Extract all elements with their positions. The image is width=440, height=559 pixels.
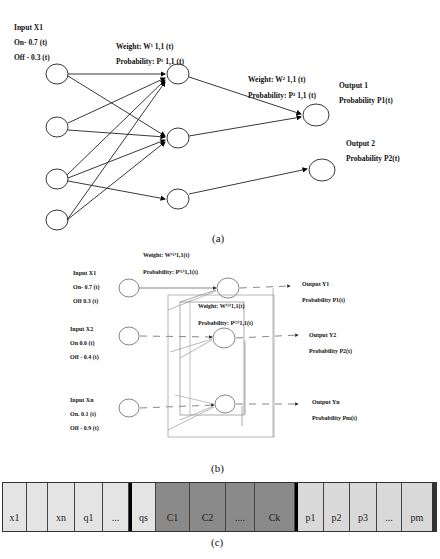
probability-top-label: Probability: P⁽¹⁾1,1(t) xyxy=(143,268,198,275)
input-xn-name: Input Xn xyxy=(70,397,94,403)
chromosome-strip: x1 xn q1 ... qs C1 C2 .... Ck p1 p2 p3 .… xyxy=(2,482,437,532)
caption-c: (c) xyxy=(211,536,223,548)
input-xn-off: Off - 0.9 (t) xyxy=(70,425,99,431)
gene-cell: q1 xyxy=(75,483,103,531)
input-x1-name: Input X1 xyxy=(73,270,96,276)
caption-a: (a) xyxy=(212,232,224,244)
output1-label: Output 1 xyxy=(339,81,368,90)
gene-cell: C2 xyxy=(190,483,226,531)
input-x1-on: On- 0.7 (t) xyxy=(73,284,100,290)
gene-cell: p3 xyxy=(350,483,377,531)
output-y1-name: Output Y1 xyxy=(302,281,329,287)
output-yn-prob: Probability Pm(t) xyxy=(312,415,357,421)
gene-cell: qs xyxy=(132,483,156,531)
weight-mid-label: Weight: W⁽²⁾1,1(t) xyxy=(198,302,245,309)
on-value-label: On- 0.7 (t) xyxy=(14,38,47,47)
gene-cell: ... xyxy=(377,483,402,531)
input-xn-on: On. 0.1 (t) xyxy=(70,411,96,417)
panel-a-network xyxy=(46,64,335,230)
probability2-label: Probability: P² 1,1 (t) xyxy=(248,91,316,100)
output1-probability-label: Probability P1(t) xyxy=(339,96,393,105)
probability1-label: Probability: P¹ 1,1 (t) xyxy=(116,57,184,66)
caption-b: (b) xyxy=(211,462,224,474)
weight-top-label: Weight: W⁽¹⁾1,1(t) xyxy=(143,251,190,258)
input-x1-label: Input X1 xyxy=(14,23,43,32)
gene-cell: p2 xyxy=(324,483,350,531)
input-x1-off: Off 0.3 (t) xyxy=(73,298,98,304)
input-x2-off: Off - 0.4 (t) xyxy=(70,354,99,360)
probability-mid-label: Probability: P⁽²⁾1,1(t) xyxy=(198,319,253,326)
gene-cell xyxy=(27,483,48,531)
gene-cell: Ck xyxy=(255,483,295,531)
gene-cell: p1 xyxy=(298,483,324,531)
output-y2-prob: Probability P2(t) xyxy=(309,348,352,354)
input-x2-name: Input X2 xyxy=(70,326,93,332)
gene-cell: C1 xyxy=(156,483,190,531)
gene-cell: .... xyxy=(226,483,255,531)
weight1-label: Weight: W¹ 1,1 (t) xyxy=(116,42,174,51)
output-y2-name: Output Y2 xyxy=(309,332,336,338)
gene-cell: xn xyxy=(48,483,75,531)
weight2-label: Weight: W² 1,1 (t) xyxy=(248,75,306,84)
output2-probability-label: Probability P2(t) xyxy=(346,154,400,163)
off-value-label: Off - 0.3 (t) xyxy=(14,53,50,62)
gene-cell: ... xyxy=(103,483,129,531)
gene-cell: x1 xyxy=(3,483,27,531)
input-x2-on: On 0.6 (t) xyxy=(70,340,95,346)
output2-label: Output 2 xyxy=(346,139,375,148)
output-y1-prob: Probability P1(t) xyxy=(302,297,345,303)
output-yn-name: Output Yn xyxy=(312,399,340,405)
gene-cell: pm xyxy=(402,483,432,531)
